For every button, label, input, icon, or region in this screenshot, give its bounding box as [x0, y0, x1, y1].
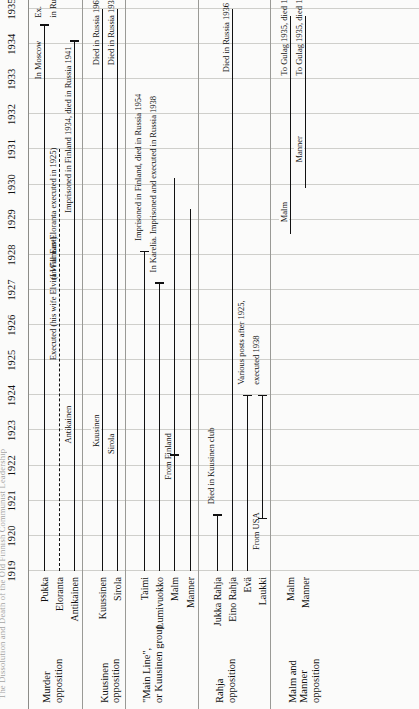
group-label: Malm andManneropposition — [287, 659, 322, 703]
group-separator — [270, 0, 271, 709]
timeline-bar — [190, 209, 191, 571]
group-label-line: opposition — [310, 659, 322, 703]
group-label-line: opposition — [226, 659, 238, 703]
bar-annotation: Died in Kuusinen club — [206, 428, 216, 505]
year-gridline — [28, 430, 419, 431]
group-label-line: Rahja — [214, 659, 226, 703]
timeline-bar — [117, 9, 118, 571]
year-gridline — [28, 219, 419, 220]
bar-inline-label: Malm — [279, 201, 289, 223]
year-gridline — [28, 289, 419, 290]
year-gridline — [28, 500, 419, 501]
year-gridline — [28, 535, 419, 536]
year-label: 1933 — [6, 69, 17, 90]
year-gridline — [28, 184, 419, 185]
year-gridline — [28, 149, 419, 150]
bar-inline-label: Manner — [294, 135, 304, 163]
group-label-line: opposition — [53, 659, 65, 703]
timeline-bar — [144, 251, 145, 571]
timeline-bar — [305, 16, 306, 188]
bar-end-cap — [40, 24, 49, 26]
bar-annotation: From Finland — [163, 433, 173, 480]
bar-inline-label: Sirola — [106, 433, 116, 455]
year-gridline — [28, 113, 419, 114]
bar-annotation: executed 1938 — [251, 336, 261, 385]
group-separator — [125, 0, 126, 709]
year-gridline — [28, 254, 419, 255]
year-label: 1928 — [6, 244, 17, 265]
year-label: 1922 — [6, 455, 17, 476]
year-label: 1919 — [6, 561, 17, 582]
timeline-bar — [247, 395, 248, 571]
bar-annotation: In Karelia. Imprisoned and executed in R… — [148, 96, 158, 273]
timeline-bar — [59, 150, 60, 572]
group-label-line: or Kuusinen group — [153, 624, 165, 703]
group-label: Kuusinenopposition — [99, 659, 123, 703]
timeline-bar — [44, 25, 45, 571]
bar-annotation: Executed (his wife Elvira Willman-Eloran… — [48, 148, 58, 361]
group-label-line: Manner — [298, 659, 310, 703]
year-gridline — [28, 394, 419, 395]
year-label: 1921 — [6, 490, 17, 511]
timeline-bar — [159, 283, 160, 571]
bar-annotation: Imprisoned in Finland 1934, died in Russ… — [63, 47, 73, 213]
bar-annotation: In Moscow — [33, 41, 43, 79]
year-label: 1927 — [6, 280, 17, 301]
year-gridline — [28, 324, 419, 325]
bar-annotation: Died in Russia 1936 — [106, 0, 116, 65]
group-label-line: Murder — [41, 659, 53, 703]
bar-annotation: in Russia — [48, 0, 58, 18]
bar-end-cap — [155, 282, 164, 284]
bar-end-cap — [243, 395, 252, 397]
bar-end-cap — [213, 514, 222, 516]
timeline-bar — [232, 9, 233, 571]
year-label: 1924 — [6, 385, 17, 406]
year-label: 1930 — [6, 174, 17, 195]
timeline-bar — [290, 16, 291, 234]
timeline-plot: 1919192019211922192319241925192619271928… — [0, 0, 419, 709]
bar-inline-label: Antikainen — [63, 405, 73, 445]
timeline-bar — [174, 178, 175, 571]
row-label-malm: Malm — [169, 577, 180, 709]
bar-annotation: To Gulag 1935, died 1939 — [294, 0, 304, 76]
year-gridline — [28, 570, 419, 571]
year-label: 1932 — [6, 104, 17, 125]
year-label: 1920 — [6, 525, 17, 546]
bar-annotation: From USA — [251, 512, 261, 550]
year-gridline — [28, 359, 419, 360]
timeline-bar — [262, 395, 263, 518]
group-label: Rahjaopposition — [214, 659, 238, 703]
year-gridline — [28, 78, 419, 79]
year-label: 1925 — [6, 350, 17, 371]
year-label: 1926 — [6, 315, 17, 336]
row-label-manner: Manner — [184, 577, 195, 709]
bar-annotation: Died in Russia 1964 — [91, 0, 101, 65]
group-separator — [82, 0, 83, 709]
bar-inline-label: Kuusinen — [91, 413, 101, 448]
bar-annotation: Ex. — [33, 6, 43, 18]
bar-annotation: Imprisoned in Finland, died in Russia 19… — [133, 94, 143, 241]
group-separator — [198, 0, 199, 709]
row-label-antikainen: Antikainen — [69, 577, 80, 709]
year-label: 1929 — [6, 209, 17, 230]
timeline-bar — [102, 9, 103, 571]
group-label-line: "Main Line", — [141, 624, 153, 703]
group-label-line: Malm and — [287, 659, 299, 703]
row-label-ev-: Evä — [242, 577, 253, 709]
timeline-bar — [217, 515, 218, 571]
bar-annotation: To Gulag 1935, died 1938 — [279, 0, 289, 76]
year-gridline — [28, 465, 419, 466]
group-label-line: Kuusinen — [99, 659, 111, 703]
timeline-figure: The Dissolution and Death of the Old Fin… — [0, 0, 419, 709]
bar-end-cap — [258, 395, 267, 397]
group-label-line: opposition — [110, 659, 122, 703]
timeline-bar — [74, 41, 75, 571]
bar-annotation: Various posts after 1925, — [236, 300, 246, 385]
bar-annotation: Died in Russia 1936 — [221, 3, 231, 72]
year-label: 1935 — [6, 0, 17, 20]
group-label: "Main Line",or Kuusinen group — [141, 624, 165, 703]
year-label: 1931 — [6, 139, 17, 160]
row-label-laukki: Laukki — [257, 577, 268, 709]
bar-end-cap — [70, 40, 79, 42]
year-label: 1934 — [6, 34, 17, 55]
